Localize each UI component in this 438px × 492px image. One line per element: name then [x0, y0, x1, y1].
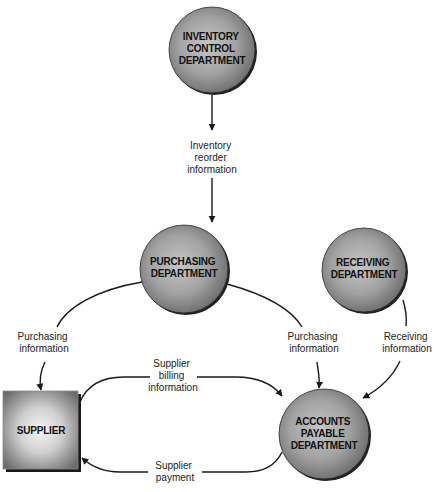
edge-purchasing-to-supplier: Purchasing information	[18, 282, 142, 390]
arrow-icon	[40, 362, 45, 390]
edge-purchasing-to-accounts-payable: Purchasing information	[227, 284, 340, 388]
flow-line	[227, 284, 302, 327]
flow-line	[403, 300, 406, 326]
node-label: INVENTORY CONTROL DEPARTMENT	[179, 31, 246, 66]
node-receiving-department[interactable]: RECEIVING DEPARTMENT	[322, 228, 408, 314]
arrow-icon	[82, 458, 148, 472]
node-label: SUPPLIER	[17, 425, 66, 436]
edge-receiving-to-accounts-payable: Receiving information	[363, 300, 432, 398]
edge-inventory-to-purchasing: Inventory reorder information	[187, 95, 236, 222]
flow-line	[80, 377, 150, 402]
node-purchasing-department[interactable]: PURCHASING DEPARTMENT	[140, 225, 230, 315]
arrow-icon	[197, 377, 282, 396]
diagram-canvas: Inventory reorder information Purchasing…	[0, 0, 438, 492]
flow-line	[57, 282, 142, 327]
arrow-icon	[317, 362, 319, 388]
edge-label: Inventory reorder information	[187, 140, 236, 175]
edge-label: Supplier billing information	[148, 358, 197, 393]
edge-supplier-billing: Supplier billing information	[80, 358, 282, 402]
node-label: RECEIVING DEPARTMENT	[331, 257, 398, 280]
node-supplier[interactable]: SUPPLIER	[3, 391, 81, 472]
edge-label: Supplier payment	[155, 460, 194, 483]
node-label: PURCHASING DEPARTMENT	[150, 256, 218, 279]
edge-supplier-payment: Supplier payment	[82, 452, 282, 483]
flow-line	[202, 452, 282, 472]
node-accounts-payable-department[interactable]: ACCOUNTS PAYABLE DEPARTMENT	[279, 389, 371, 481]
arrow-icon	[363, 361, 400, 398]
edge-label: Receiving information	[382, 331, 431, 354]
edge-label: Purchasing information	[18, 331, 71, 354]
edge-label: Purchasing information	[288, 331, 341, 354]
node-inventory-control-department[interactable]: INVENTORY CONTROL DEPARTMENT	[169, 7, 257, 95]
